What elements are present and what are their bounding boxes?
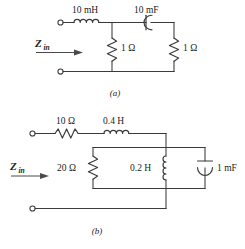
label-1mf: 1 mF xyxy=(217,163,237,173)
resistor-zigzag-icon xyxy=(88,156,97,179)
zin-subscript-b: in xyxy=(19,166,25,175)
circuit-b-bottom-terminal[interactable] xyxy=(30,206,35,211)
circuit-a-group: 10 mH 10 mF 1 Ω 1 Ω Z in (a) xyxy=(34,5,197,98)
circuit-b-top-terminal[interactable] xyxy=(30,131,35,136)
circuit-b-zin-label: Z in xyxy=(9,160,25,175)
inductor-coil-icon xyxy=(74,19,99,22)
inductor-coil-icon xyxy=(104,130,129,133)
circuit-a-zin-label: Z in xyxy=(34,37,50,52)
inductor-coil-icon xyxy=(163,156,166,180)
circuit-b-zin-arrow xyxy=(11,173,49,179)
resistor-zigzag-icon xyxy=(169,38,178,61)
label-10mh: 10 mH xyxy=(72,5,98,15)
label-20ohm: 20 Ω xyxy=(57,163,76,173)
resistor-zigzag-icon xyxy=(55,129,78,138)
circuit-b-group: 10 Ω 0.4 H 20 Ω 0.2 H 1 mF Z in (b) xyxy=(9,116,237,236)
caption-a: (a) xyxy=(110,88,121,98)
circuit-a-top-terminal[interactable] xyxy=(58,20,63,25)
label-04h: 0.4 H xyxy=(103,116,124,126)
label-10ohm: 10 Ω xyxy=(56,116,75,126)
figure-root: 10 mH 10 mF 1 Ω 1 Ω Z in (a) xyxy=(0,0,245,249)
circuit-diagram-canvas: 10 mH 10 mF 1 Ω 1 Ω Z in (a) xyxy=(0,0,245,249)
zin-symbol-b: Z xyxy=(9,160,17,172)
resistor-zigzag-icon xyxy=(107,38,116,61)
circuit-a-bottom-terminal[interactable] xyxy=(58,69,63,74)
zin-symbol-a: Z xyxy=(34,37,42,49)
label-1ohm-right: 1 Ω xyxy=(183,43,197,53)
zin-subscript-a: in xyxy=(44,43,50,52)
label-02h: 0.2 H xyxy=(130,163,151,173)
label-1ohm-left: 1 Ω xyxy=(121,43,135,53)
caption-b: (b) xyxy=(92,226,103,236)
label-10mf: 10 mF xyxy=(134,5,159,15)
